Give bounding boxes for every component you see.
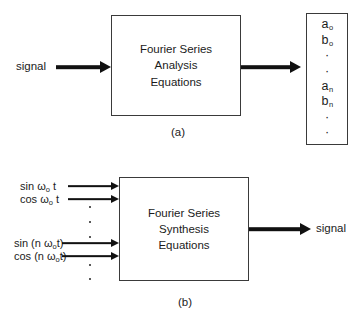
panel-b-dots-lower [85, 264, 95, 280]
synthesis-box: Fourier Series Synthesis Equations [119, 177, 249, 281]
arrow-shaft [68, 185, 112, 187]
analysis-box-line-3: Equations [150, 74, 201, 90]
panel-b-input-label-sin-w0t: sin ωo t [20, 181, 56, 192]
panel-a-caption: (a) [148, 126, 208, 138]
omega-symbol: ω [37, 180, 46, 192]
label-suffix: t [50, 180, 56, 192]
arrow-shaft [62, 242, 112, 244]
coefficient-item-bn: bn [321, 95, 332, 108]
coefficient-item-dot-4: · [325, 126, 329, 139]
arrow-shaft [68, 198, 112, 200]
dot [89, 264, 91, 266]
panel-b-dots-upper [85, 206, 95, 238]
figure-canvas: signal Fourier Series Analysis Equations… [0, 0, 356, 321]
arrow-shaft [241, 65, 292, 69]
label-prefix: cos [20, 193, 40, 205]
arrow-head [290, 61, 301, 73]
label-prefix: cos (n [14, 250, 47, 262]
arrow-head [111, 252, 119, 260]
coefficient-item-a0: ao [321, 18, 332, 31]
coefficient-item-dot-3: · [325, 111, 329, 124]
panel-b-input-label-cos-nw0t: cos (n ωot) [14, 251, 67, 262]
label-prefix: sin [20, 180, 37, 192]
synthesis-box-line-3: Equations [158, 237, 209, 253]
omega-symbol: ω [40, 193, 49, 205]
label-suffix: t [53, 193, 59, 205]
coefficient-item-b0: bo [321, 34, 332, 47]
panel-b-caption: (b) [155, 296, 215, 308]
label-prefix: sin (n [14, 237, 44, 249]
arrow-head [111, 182, 119, 190]
panel-b-input-label-cos-w0t: cos ωo t [20, 194, 59, 205]
coefficient-column-vector: ao bo · · an bn · · [306, 13, 348, 145]
dot [89, 221, 91, 223]
arrow-head [300, 223, 311, 235]
dot [89, 278, 91, 280]
omega-symbol: ω [47, 250, 56, 262]
analysis-box-line-1: Fourier Series [140, 41, 212, 57]
arrow-shaft [56, 65, 102, 69]
arrow-shaft [249, 227, 302, 231]
arrow-head [111, 239, 119, 247]
dot [89, 236, 91, 238]
coefficient-item-dot-1: · [325, 49, 329, 62]
dot [89, 206, 91, 208]
analysis-box: Fourier Series Analysis Equations [111, 15, 241, 116]
omega-subscript: o [56, 255, 60, 264]
synthesis-box-line-1: Fourier Series [148, 205, 220, 221]
panel-b-input-label-sin-nw0t: sin (n ωot) [14, 238, 63, 249]
arrow-head [111, 195, 119, 203]
panel-a-input-label: signal [16, 61, 46, 73]
arrow-head [100, 61, 111, 73]
coefficient-item-dot-2: · [325, 65, 329, 78]
synthesis-box-line-2: Synthesis [159, 221, 209, 237]
omega-symbol: ω [44, 237, 53, 249]
panel-b-output-label: signal [316, 223, 346, 235]
arrow-shaft [62, 255, 112, 257]
coefficient-list: ao bo · · an bn · · [307, 14, 347, 144]
analysis-box-line-2: Analysis [155, 57, 198, 73]
coefficient-item-an: an [321, 80, 332, 93]
omega-subscript: o [49, 198, 53, 207]
